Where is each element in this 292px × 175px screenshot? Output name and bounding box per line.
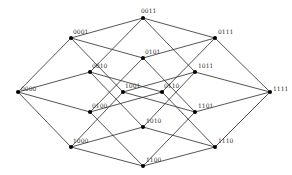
edge-1000-1100	[71, 147, 143, 166]
node-0110	[160, 90, 164, 94]
edge-0011-1011	[143, 18, 195, 72]
nodes-group	[16, 16, 272, 168]
edge-0110-1110	[162, 92, 215, 147]
node-0111	[213, 36, 217, 40]
node-label-1011: 1011	[198, 62, 213, 69]
node-label-1110: 1110	[218, 137, 233, 144]
node-label-1000: 1000	[73, 137, 88, 144]
node-0100	[88, 110, 92, 114]
node-label-0000: 0000	[21, 85, 36, 92]
node-label-0001: 0001	[73, 28, 88, 35]
graph-svg: 0000000100100011010001010110011110001001…	[0, 0, 292, 175]
hypercube-diagram: 0000000100100011010001010110011110001001…	[0, 0, 292, 175]
node-0001	[69, 36, 73, 40]
node-0101	[141, 56, 145, 60]
node-label-0101: 0101	[145, 48, 160, 55]
edge-1010-1110	[143, 127, 215, 147]
node-label-1101: 1101	[198, 102, 213, 109]
edge-0011-0111	[143, 18, 215, 38]
edge-0100-1100	[90, 112, 143, 166]
node-1000	[69, 145, 73, 149]
edge-0000-0001	[18, 38, 71, 92]
node-1011	[193, 70, 197, 74]
edge-1011-1111	[195, 72, 270, 92]
node-1111	[268, 90, 272, 94]
node-0010	[88, 70, 92, 74]
edge-0000-1000	[18, 92, 71, 147]
node-label-0010: 0010	[92, 62, 107, 69]
node-label-0100: 0100	[92, 102, 107, 109]
node-label-1111: 1111	[273, 85, 288, 92]
node-1010	[141, 125, 145, 129]
node-0011	[141, 16, 145, 20]
edge-0111-1111	[215, 38, 270, 92]
node-label-0011: 0011	[141, 7, 156, 14]
node-1101	[193, 110, 197, 114]
node-1110	[213, 145, 217, 149]
node-1100	[141, 164, 145, 168]
node-label-0111: 0111	[218, 28, 233, 35]
node-label-1010: 1010	[146, 117, 161, 124]
node-label-1001: 1001	[125, 82, 140, 89]
node-1001	[121, 90, 125, 94]
node-label-1100: 1100	[146, 156, 161, 163]
edge-1001-1101	[123, 92, 195, 112]
node-0000	[16, 90, 20, 94]
edge-0000-0100	[18, 92, 90, 112]
node-label-0110: 0110	[164, 82, 179, 89]
